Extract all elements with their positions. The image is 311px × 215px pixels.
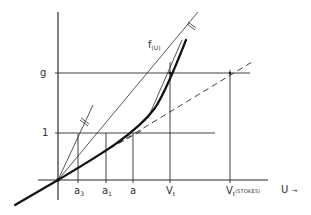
tick-mark-a3 (80, 118, 89, 126)
stokes-g-point (229, 72, 231, 74)
x-tick-label-a1: a1 (102, 186, 112, 199)
x-axis-title: U (281, 184, 288, 195)
curve-label-f-u: f(U) (148, 40, 161, 53)
x-tick-label-a: a (130, 186, 136, 196)
x-tick-main: V (166, 185, 173, 196)
x-tick-sub: 1 (108, 190, 112, 197)
vt-g-point (169, 72, 172, 75)
x-tick-main: a (130, 185, 136, 196)
curve-label-sub: (U) (152, 44, 161, 51)
origin-point (56, 178, 60, 182)
x-tick-label-vt: Vt (166, 186, 175, 199)
diagram-canvas (0, 0, 311, 215)
x-tick-sub: 3 (80, 190, 84, 197)
y-tick-label-1: 1 (42, 128, 48, 138)
y-tick-label-g: g (40, 68, 46, 78)
x-tick-sub: t (173, 190, 175, 197)
x-tick-main: V (226, 185, 233, 196)
x-tick-note: (STOKES) (235, 188, 260, 194)
arrow-right-icon: → (292, 187, 298, 195)
x-tick-label-a3: a3 (74, 186, 84, 199)
x-tick-label-vt-stokes: Vt(STOKES) (226, 186, 260, 199)
x-axis-label: U → (281, 185, 297, 196)
secant-line-vt (58, 12, 198, 180)
